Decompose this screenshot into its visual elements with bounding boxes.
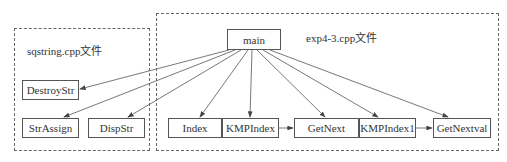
node-dispstr: DispStr xyxy=(88,118,145,138)
node-getnext: GetNext xyxy=(294,118,359,138)
node-strassign: StrAssign xyxy=(22,118,79,138)
node-kmpindex1: KMPIndex1 xyxy=(359,118,416,138)
node-getnextval: GetNextval xyxy=(433,118,491,138)
node-kmpindex: KMPIndex xyxy=(222,118,279,138)
node-index: Index xyxy=(168,118,222,138)
node-destroystr: DestroyStr xyxy=(22,80,79,100)
node-main: main xyxy=(227,29,281,50)
